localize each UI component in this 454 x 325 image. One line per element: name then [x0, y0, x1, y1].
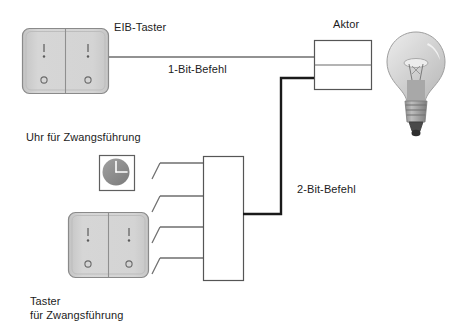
contact-4[interactable] — [152, 258, 203, 274]
diagram-graphics — [0, 0, 454, 325]
bulb-neck — [407, 80, 425, 102]
label-taster-line2: für Zwangsführung — [30, 308, 123, 322]
label-eib-taster: EIB-Taster — [114, 20, 166, 34]
taster-zw-left-dot — [87, 239, 89, 241]
eib-taster-left-dot — [43, 55, 45, 57]
bulb-contact-tip — [412, 130, 421, 136]
contact-1[interactable] — [152, 163, 203, 179]
contact-1-lever — [152, 163, 160, 179]
aktor-box[interactable] — [315, 41, 372, 90]
label-2-bit-befehl: 2-Bit-Befehl — [297, 182, 356, 196]
eib-taster-switch[interactable] — [23, 29, 109, 94]
contact-2[interactable] — [152, 196, 203, 212]
bulb-screw-base — [405, 101, 427, 122]
contact-4-lever — [152, 258, 160, 274]
taster-zwangsfuehrung-switch[interactable] — [69, 213, 149, 278]
label-aktor: Aktor — [333, 17, 359, 31]
diagram-canvas: EIB-Taster 1-Bit-Befehl Aktor Uhr für Zw… — [0, 0, 454, 325]
label-taster-line1: Taster — [30, 294, 123, 308]
contact-3[interactable] — [152, 227, 203, 243]
bulb-base-insulator — [409, 122, 423, 131]
lamp-bulb — [387, 32, 445, 136]
eib-taster-right-dot — [87, 55, 89, 57]
contact-3-lever — [152, 227, 160, 243]
label-1-bit-befehl: 1-Bit-Befehl — [168, 62, 227, 76]
logic-box[interactable] — [204, 157, 244, 281]
contact-group — [152, 163, 203, 274]
label-uhr-fuer-zwangsfuehrung: Uhr für Zwangsführung — [26, 130, 141, 144]
label-taster-fuer-zwangsfuehrung: Taster für Zwangsführung — [30, 294, 123, 322]
taster-zw-right-dot — [128, 239, 130, 241]
clock-icon[interactable] — [100, 156, 135, 191]
bulb-filament-mount — [404, 59, 428, 68]
contact-2-lever — [152, 196, 160, 212]
